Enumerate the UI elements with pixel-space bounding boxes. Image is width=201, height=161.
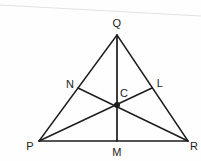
- label-N: N: [66, 79, 74, 90]
- label-C: C: [120, 88, 128, 99]
- label-R: R: [190, 141, 198, 152]
- label-Q: Q: [113, 18, 122, 29]
- label-P: P: [26, 141, 34, 152]
- label-L: L: [157, 78, 163, 89]
- geometry-figure: Q N L C P M R: [0, 0, 201, 161]
- centroid-dot: [114, 102, 120, 108]
- label-M: M: [112, 147, 121, 158]
- triangle-diagram-canvas: [0, 0, 201, 161]
- scan-line-artifact: [0, 5, 201, 16]
